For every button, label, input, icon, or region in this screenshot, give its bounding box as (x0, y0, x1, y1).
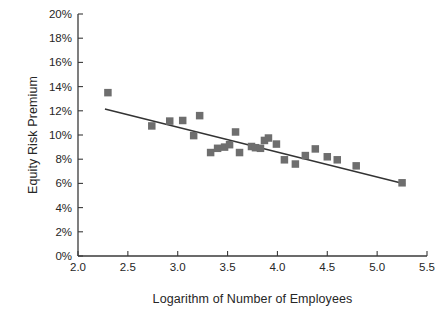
axis-lines (78, 14, 427, 256)
data-point-marker (214, 145, 222, 153)
data-point-marker (273, 140, 281, 148)
data-point-marker (352, 162, 360, 170)
data-point-marker (232, 128, 240, 136)
equity-risk-premium-scatter-chart: Equity Risk Premium Logarithm of Number … (0, 0, 445, 323)
data-point-marker (334, 156, 342, 164)
data-point-marker (324, 153, 332, 161)
data-point-marker (207, 149, 215, 157)
data-point-marker (190, 132, 198, 140)
data-point-marker (292, 160, 300, 168)
data-point-marker (148, 122, 156, 130)
data-point-marker (302, 152, 310, 160)
data-point-marker (265, 134, 273, 142)
data-point-marker (226, 141, 234, 149)
data-point-marker (236, 149, 244, 157)
data-point-marker (398, 179, 406, 187)
data-points (104, 89, 406, 187)
data-point-marker (281, 156, 289, 164)
data-point-marker (312, 145, 320, 153)
data-point-marker (196, 112, 204, 120)
data-point-marker (257, 145, 265, 153)
data-point-marker (166, 117, 174, 125)
plot-area (0, 0, 445, 323)
data-point-marker (104, 89, 112, 97)
data-point-marker (179, 117, 187, 125)
axis-tick-marks (78, 14, 427, 256)
